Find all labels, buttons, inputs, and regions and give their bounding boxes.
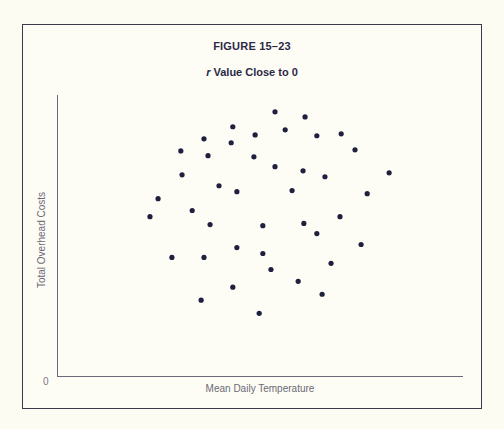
data-point [365, 191, 370, 196]
data-point [201, 136, 206, 141]
data-point [216, 183, 221, 188]
data-point [358, 242, 363, 247]
data-point [302, 114, 307, 119]
data-point [272, 109, 277, 114]
scatter-plot-area [0, 0, 504, 429]
data-point [234, 245, 239, 250]
data-point [339, 131, 344, 136]
data-point [283, 127, 288, 132]
data-point [178, 148, 183, 153]
data-point [253, 132, 258, 137]
data-point [260, 223, 265, 228]
data-point [190, 208, 195, 213]
data-point [147, 214, 152, 219]
data-point [289, 188, 294, 193]
data-point [257, 311, 262, 316]
data-point [207, 222, 212, 227]
data-point [320, 292, 325, 297]
data-point [179, 172, 184, 177]
data-point [314, 133, 319, 138]
data-point [300, 168, 305, 173]
data-points [147, 109, 391, 316]
data-point [314, 231, 319, 236]
data-point [229, 140, 234, 145]
data-point [352, 147, 357, 152]
data-point [155, 196, 160, 201]
data-point [296, 279, 301, 284]
data-point [230, 285, 235, 290]
data-point [272, 164, 277, 169]
data-point [387, 170, 392, 175]
data-point [201, 255, 206, 260]
data-point [301, 221, 306, 226]
data-point [169, 255, 174, 260]
data-point [337, 214, 342, 219]
data-point [322, 174, 327, 179]
data-point [260, 251, 265, 256]
data-point [251, 154, 256, 159]
data-point [205, 153, 210, 158]
data-point [234, 189, 239, 194]
data-point [328, 261, 333, 266]
data-point [230, 124, 235, 129]
data-point [199, 298, 204, 303]
data-point [268, 267, 273, 272]
